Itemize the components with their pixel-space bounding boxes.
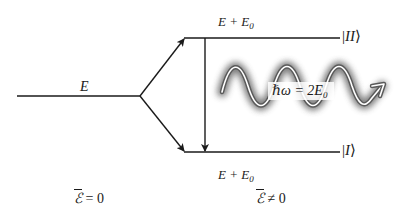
lower-branch-arrow bbox=[140, 96, 184, 151]
upper-state-ket: |II⟩ bbox=[342, 29, 361, 44]
lower-state-ket: |I⟩ bbox=[342, 143, 356, 158]
field-zero-label: ℰ = 0 bbox=[74, 191, 104, 206]
field-nonzero-label: ℰ ≠ 0 bbox=[256, 191, 286, 206]
energy-level-diagram: E E + E0 |II⟩ ℏω = 2E0 |I⟩ E + E0 ℰ = 0 … bbox=[0, 0, 403, 221]
left-level-energy-label: E bbox=[80, 80, 89, 94]
photon-energy-label: ℏω = 2E0 bbox=[272, 84, 327, 100]
lower-level-energy-label: E + E0 bbox=[218, 168, 254, 184]
upper-branch-arrow bbox=[140, 39, 184, 96]
upper-level-energy-label: E + E0 bbox=[218, 15, 254, 31]
